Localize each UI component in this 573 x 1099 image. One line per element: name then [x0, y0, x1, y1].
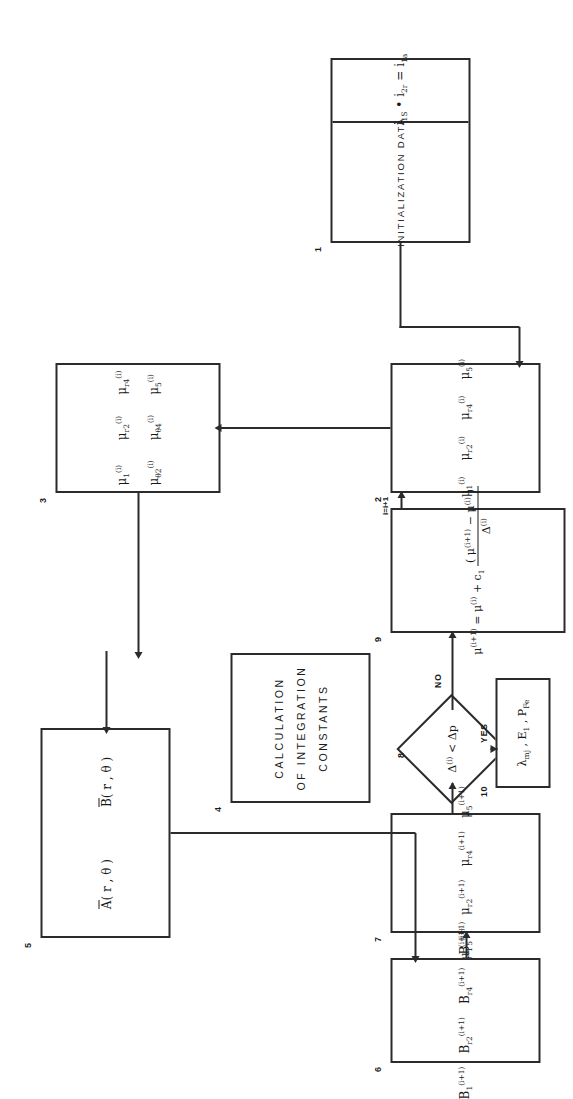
edge-label-no: NO: [432, 673, 442, 688]
node-8-condition-wrap: Δ(i) < Δp: [412, 710, 490, 788]
node-2-box[interactable]: μ1(i) μr2(i) μr4(i) μ5(i): [390, 363, 540, 493]
node-6-item-B1: B1(i+1): [457, 1067, 473, 1099]
edge-6-to-7-arrow: [462, 931, 470, 938]
node-3-item-mu1: μ1(i): [114, 465, 130, 486]
edge-5-to-6-arrow: [411, 956, 419, 963]
edge-1-to-2-arrow: [515, 361, 523, 368]
node-2-item-mur2: μr2(i): [457, 436, 473, 460]
node-10-number: 10: [478, 786, 488, 797]
edge-5-to-6-seg-h: [414, 833, 416, 957]
node-7-item-mur4: μr4(i+1): [457, 831, 473, 866]
node-4-line-1: CALCULATION: [269, 677, 287, 778]
node-4-box[interactable]: CALCULATION OF INTEGRATION CONSTANTS: [230, 653, 370, 803]
edge-4-to-5-arrow: [102, 727, 110, 734]
edge-2-to-3-arrow: [214, 425, 221, 433]
node-1-right-cell: i1S • i2r = i1a: [332, 58, 468, 121]
node-3-item-mu5: μ5(i): [146, 374, 162, 395]
node-3-number: 3: [37, 498, 47, 503]
node-10-outputs: λmj , E1 , PFe: [516, 700, 530, 767]
node-3-item-mutheta2: μθ2(i): [146, 460, 162, 485]
node-2-item-mu5: μ5(i): [457, 359, 473, 380]
edge-8-to-10-arrow: [490, 746, 497, 754]
edge-4-to-5-line: [105, 651, 107, 728]
node-1-box[interactable]: INITIALIZATION DATA i1S • i2r = i1a: [330, 58, 470, 243]
node-4-line-3: CONSTANTS: [313, 684, 331, 771]
node-6-item-Br2: Br2(i+1): [457, 1017, 473, 1054]
node-3-box[interactable]: μ1(i) μθ2(i) μr2(i) μθ4(i) μr4(i) μ5(i): [55, 363, 220, 493]
node-7-item-mur2: μr2(i+1): [457, 880, 473, 915]
node-1-number: 1: [312, 247, 322, 252]
node-1-left-cell: INITIALIZATION DATA: [332, 123, 468, 241]
node-5-number: 5: [22, 943, 32, 948]
node-3-item-mur4: μr4(i): [114, 370, 130, 394]
node-2-item-mur4: μr4(i): [457, 396, 473, 420]
node-4-line-2: OF INTEGRATION: [291, 666, 309, 791]
node-6-item-Br4: Br4(i+1): [457, 968, 473, 1005]
edge-8-to-9-line: [451, 632, 453, 710]
node-4-number: 4: [212, 807, 222, 812]
node-9-box[interactable]: μ(i+1) = μ(i) + c1 ( μ(i+1) − μ(i) ) Δ(i…: [390, 508, 565, 633]
node-5-item-A: A( r , θ ): [98, 859, 112, 909]
edge-label-iteration: i=i+1: [380, 497, 389, 515]
node-7-item-mu5: μ5(i+1): [457, 786, 473, 818]
edge-1-to-2-seg-h2: [518, 327, 520, 362]
edge-8-to-9-arrow: [448, 631, 456, 638]
node-8-condition: Δ(i) < Δp: [445, 725, 458, 772]
node-7-number: 7: [372, 937, 382, 942]
node-8-number: 8: [395, 753, 405, 758]
edge-1-to-2-seg-v: [399, 326, 519, 328]
edge-1-to-2-seg-h1: [399, 242, 401, 328]
node-6-number: 6: [372, 1067, 382, 1072]
node-10-box[interactable]: λmj , E1 , PFe: [495, 678, 550, 788]
edge-label-yes: YES: [478, 723, 488, 743]
node-1-expression: i1S • i2r = i1a: [393, 54, 408, 125]
edge-5-to-6-seg-v: [170, 832, 415, 834]
node-5-item-B: B( r , θ ): [98, 757, 112, 807]
node-9-equation: μ(i+1) = μ(i) + c1 ( μ(i+1) − μ(i) ) Δ(i…: [463, 486, 491, 654]
edge-7-to-8-arrow: [448, 782, 456, 789]
edge-3-to-4-line: [137, 493, 139, 653]
node-5-box[interactable]: A( r , θ ) B( r , θ ): [40, 728, 170, 938]
edge-3-to-4-arrow: [134, 652, 142, 659]
node-3-item-mutheta4: μθ4(i): [146, 415, 162, 440]
node-3-item-mur2: μr2(i): [114, 416, 130, 440]
edge-2-to-3-line: [220, 427, 390, 429]
node-9-number: 9: [372, 637, 382, 642]
edge-9-to-2-arrow: [397, 491, 405, 498]
node-7-box[interactable]: μ1(i+1) μr2(i+1) μr4(i+1) μ5(i+1): [390, 813, 540, 933]
node-6-box[interactable]: B1(i+1) Br2(i+1) Br4(i+1) B5(i+1): [390, 958, 540, 1063]
node-1-label: INITIALIZATION DATA: [391, 117, 409, 247]
